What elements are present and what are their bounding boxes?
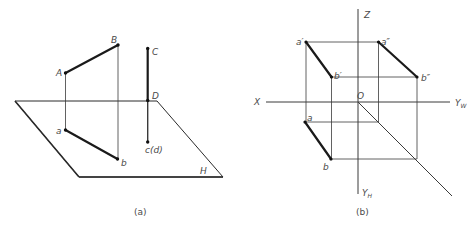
label-D: D <box>152 91 159 101</box>
line-AB <box>66 45 119 73</box>
caption-a: (a) <box>134 207 147 217</box>
point-A <box>64 71 67 74</box>
label-cd: c(d) <box>145 145 163 155</box>
axis-45-diagonal <box>358 102 452 196</box>
label-x: X <box>253 97 261 107</box>
label-yw: YW <box>455 98 468 109</box>
point-cd <box>146 140 149 143</box>
label-a: a <box>307 113 313 123</box>
panel-b: Z X O YW YH a′ b′ a″ b″ a b (b) <box>253 9 468 217</box>
label-a-prime: a′ <box>296 37 304 47</box>
line-ab <box>66 130 118 159</box>
line-ab <box>305 122 331 159</box>
projection-diagram: B A C D a b c(d) H (a) <box>0 0 472 226</box>
label-A: A <box>55 68 62 78</box>
label-a: a <box>56 126 62 136</box>
label-b-dprime: b″ <box>421 73 431 83</box>
point-a-prime <box>304 40 307 43</box>
point-b-prime <box>330 75 333 78</box>
point-b <box>116 157 119 160</box>
point-D <box>146 99 149 102</box>
label-b-prime: b′ <box>334 71 342 81</box>
line-a-prime-b-prime <box>306 42 332 77</box>
h-plane-left-edge <box>15 101 79 177</box>
point-C <box>146 47 149 50</box>
label-yh: YH <box>362 188 373 199</box>
label-origin: O <box>357 91 364 101</box>
label-a-dprime: a″ <box>381 37 391 47</box>
point-b-dprime <box>415 75 418 78</box>
point-a-dprime <box>377 40 380 43</box>
point-b <box>329 157 332 160</box>
line-a-dprime-b-dprime <box>379 42 418 77</box>
panel-a: B A C D a b c(d) H (a) <box>15 35 223 217</box>
label-b: b <box>323 162 329 172</box>
label-z: Z <box>363 10 371 20</box>
label-H: H <box>200 166 207 176</box>
caption-b: (b) <box>356 207 369 217</box>
label-B: B <box>111 35 117 45</box>
point-a <box>64 128 67 131</box>
label-C: C <box>152 47 159 57</box>
label-b: b <box>121 158 127 168</box>
